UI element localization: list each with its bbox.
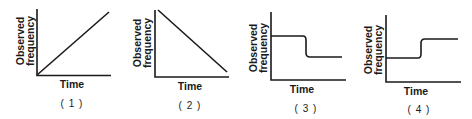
panel-4-xlabel: Time: [404, 85, 428, 97]
panel-4: Observed frequency Time ( 4 ): [362, 15, 461, 115]
panel-2-xlabel: Time: [178, 80, 202, 92]
panel-2-ylabel-line2: frequency: [141, 18, 153, 68]
panel-2-axes: [155, 10, 229, 77]
panel-3-axes: [271, 12, 346, 80]
panel-4-curve: [386, 39, 458, 58]
panel-2: Observed frequency Time ( 2 ): [131, 10, 229, 111]
panel-4-ylabel-line2: frequency: [372, 25, 384, 75]
panel-1-curve: [37, 12, 109, 75]
panel-1: Observed frequency Time ( 1 ): [14, 9, 111, 109]
panel-1-ylabel-line2: frequency: [24, 16, 36, 66]
panel-2-curve: [158, 10, 227, 72]
frequency-time-diagrams: Observed frequency Time ( 1 ) Observed f…: [0, 0, 472, 119]
panel-3-curve: [271, 36, 342, 57]
panel-1-caption: ( 1 ): [61, 98, 84, 109]
panel-4-axes: [386, 15, 461, 82]
panel-1-xlabel: Time: [60, 78, 84, 90]
panel-3-caption: ( 3 ): [295, 103, 318, 114]
panel-3-ylabel-line2: frequency: [257, 23, 269, 73]
panel-4-caption: ( 4 ): [408, 104, 431, 115]
panel-3: Observed frequency Time ( 3 ): [247, 12, 346, 114]
panel-3-xlabel: Time: [290, 83, 314, 95]
panel-2-caption: ( 2 ): [179, 100, 202, 111]
